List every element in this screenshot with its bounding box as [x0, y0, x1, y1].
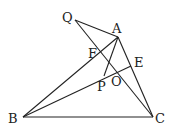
geometry-diagram: Q A F E O P B C — [0, 0, 177, 136]
segment-AC — [118, 37, 153, 117]
label-B: B — [8, 111, 18, 126]
label-C: C — [155, 111, 165, 126]
label-Q: Q — [62, 10, 73, 25]
label-O: O — [111, 74, 122, 89]
label-F: F — [88, 46, 97, 61]
label-P: P — [97, 79, 106, 94]
label-E: E — [134, 55, 144, 70]
segment-AB — [23, 37, 118, 117]
label-A: A — [111, 21, 122, 36]
point-labels: Q A F E O P B C — [8, 10, 165, 126]
